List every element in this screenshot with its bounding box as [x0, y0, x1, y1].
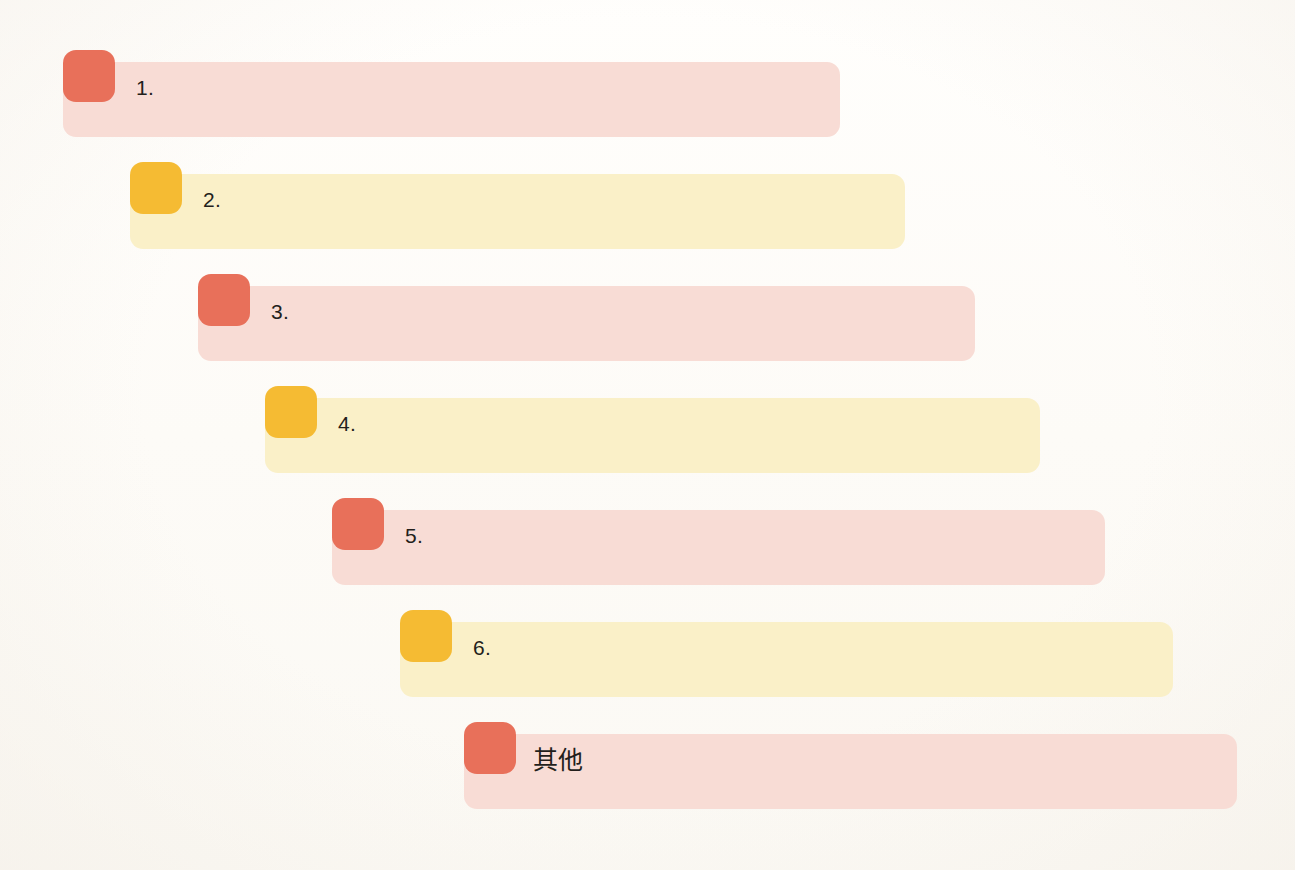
- row-badge-icon: [265, 386, 317, 438]
- row-label: 3.: [271, 286, 289, 338]
- row-label: 1.: [136, 62, 154, 114]
- row-bar: [400, 622, 1173, 697]
- row-label: 2.: [203, 174, 221, 226]
- staircase-list-chart: 1.2.3.4.5.6.其他: [0, 0, 1295, 870]
- row-badge-icon: [464, 722, 516, 774]
- row-label: 6.: [473, 622, 491, 674]
- row-bar: [332, 510, 1105, 585]
- row-bar: [63, 62, 840, 137]
- row-badge-icon: [130, 162, 182, 214]
- row-bar: [198, 286, 975, 361]
- row-label: 其他: [533, 734, 584, 786]
- row-badge-icon: [332, 498, 384, 550]
- row-badge-icon: [198, 274, 250, 326]
- row-bar: [130, 174, 905, 249]
- row-bar: [265, 398, 1040, 473]
- row-badge-icon: [63, 50, 115, 102]
- row-label: 4.: [338, 398, 356, 450]
- row-badge-icon: [400, 610, 452, 662]
- row-label: 5.: [405, 510, 423, 562]
